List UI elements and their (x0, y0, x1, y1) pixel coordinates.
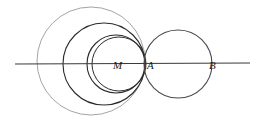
right-circle (144, 30, 212, 98)
figure-canvas (0, 0, 260, 122)
geometry-figure: M A B (0, 0, 260, 122)
point-label-b: B (209, 60, 216, 71)
outermost-circle (37, 7, 145, 115)
point-label-m: M (113, 60, 122, 71)
point-label-a: A (147, 60, 154, 71)
